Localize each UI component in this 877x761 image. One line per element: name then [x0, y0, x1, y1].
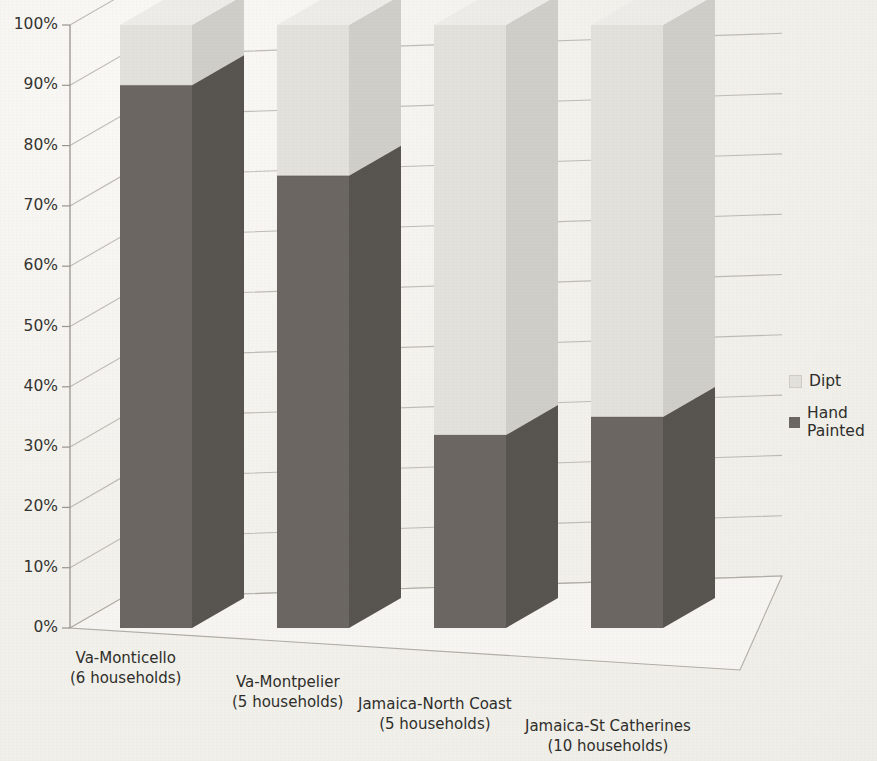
y-axis — [62, 25, 70, 628]
legend-swatch-icon — [789, 375, 802, 388]
category-label-line: Va-Montpelier — [232, 672, 343, 692]
stacked-bar-chart: 0%10%20%30%40%50%60%70%80%90%100% Va-Mon… — [0, 0, 877, 761]
category-label-line: (6 households) — [70, 668, 181, 688]
bar-segment-hand-painted-1 — [120, 55, 244, 628]
category-label-line: Jamaica-North Coast — [358, 694, 512, 714]
category-label-line: Jamaica-St Catherines — [525, 716, 691, 736]
category-label-2: Va-Montpelier(5 households) — [232, 672, 343, 713]
chart-canvas — [0, 0, 877, 761]
bar-segment-hand-painted-2 — [277, 146, 401, 628]
y-tick-70: 70% — [24, 196, 58, 214]
y-tick-100: 100% — [14, 15, 58, 33]
bar-segment-dipt-2 — [277, 0, 401, 176]
bar-4 — [591, 0, 715, 628]
y-tick-80: 80% — [24, 136, 58, 154]
category-label-line: (5 households) — [232, 692, 343, 712]
legend-label: Dipt — [809, 372, 841, 390]
bar-segment-dipt-3 — [434, 0, 558, 435]
category-label-line: (5 households) — [358, 714, 512, 734]
chart-legend: DiptHand Painted — [789, 372, 877, 454]
y-tick-30: 30% — [24, 437, 58, 455]
y-tick-20: 20% — [24, 497, 58, 515]
category-label-line: (10 households) — [525, 736, 691, 756]
y-tick-50: 50% — [24, 317, 58, 335]
bar-segment-dipt-4 — [591, 0, 715, 417]
category-label-3: Jamaica-North Coast(5 households) — [358, 694, 512, 735]
bar-1 — [120, 0, 244, 628]
category-label-4: Jamaica-St Catherines(10 households) — [525, 716, 691, 757]
legend-label: Hand Painted — [807, 404, 877, 440]
y-tick-90: 90% — [24, 75, 58, 93]
legend-item-dipt[interactable]: Dipt — [789, 372, 877, 390]
legend-item-hand-painted[interactable]: Hand Painted — [789, 404, 877, 440]
bar-3 — [434, 0, 558, 628]
y-tick-40: 40% — [24, 377, 58, 395]
bar-segment-hand-painted-4 — [591, 387, 715, 628]
legend-swatch-icon — [789, 417, 800, 428]
y-tick-10: 10% — [24, 558, 58, 576]
category-label-line: Va-Monticello — [70, 648, 181, 668]
category-label-1: Va-Monticello(6 households) — [70, 648, 181, 689]
bar-2 — [277, 0, 401, 628]
bar-segment-hand-painted-3 — [434, 405, 558, 628]
bars-group — [120, 0, 715, 628]
y-tick-60: 60% — [24, 256, 58, 274]
y-tick-0: 0% — [33, 618, 58, 636]
